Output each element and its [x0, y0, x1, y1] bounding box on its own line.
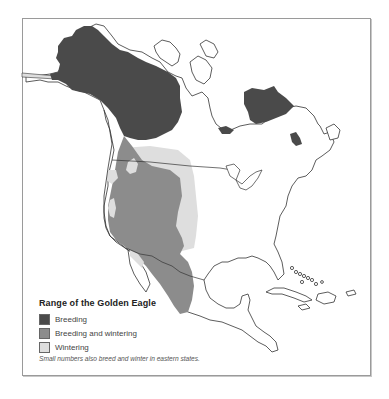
bahamas: [290, 266, 323, 285]
legend-title: Range of the Golden Eagle: [39, 298, 200, 308]
breeding-and-wintering-swatch: [39, 328, 50, 339]
legend-item-breeding-and-wintering: Breeding and wintering: [39, 326, 200, 340]
puerto-rico: [346, 290, 356, 296]
map-legend: Range of the Golden Eagle Breeding Breed…: [39, 298, 200, 362]
legend-label: Wintering: [55, 343, 89, 352]
jamaica: [298, 304, 310, 310]
legend-footnote: Small numbers also breed and winter in e…: [39, 355, 200, 362]
legend-item-wintering: Wintering: [39, 340, 200, 354]
wintering-swatch: [39, 342, 50, 353]
legend-label: Breeding and wintering: [55, 329, 137, 338]
breeding-swatch: [39, 314, 50, 325]
arctic-island-3: [200, 40, 218, 58]
hispaniola: [316, 292, 336, 304]
legend-label: Breeding: [55, 315, 87, 324]
cuba: [266, 288, 312, 302]
legend-item-breeding: Breeding: [39, 312, 200, 326]
arctic-island-2: [190, 56, 212, 84]
